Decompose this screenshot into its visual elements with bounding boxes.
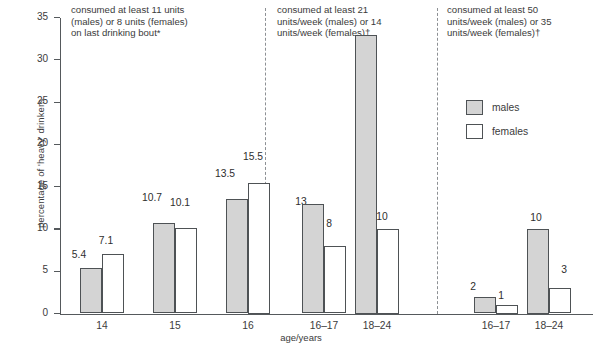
bar-value-p3g1-females: 1 <box>483 290 519 301</box>
bar-p2g1-females <box>324 246 346 314</box>
y-tick-15 <box>54 186 60 187</box>
bar-p1g1-females <box>102 254 124 314</box>
bar-value-p2g1-females: 8 <box>311 218 347 229</box>
bar-p1g3-females <box>248 183 270 314</box>
y-tick-label-25: 25 <box>14 95 48 106</box>
bar-p1g1-males <box>80 268 102 314</box>
bar-p1g2-females <box>175 228 197 313</box>
y-tick-20 <box>54 144 60 145</box>
panel-3-caption: consumed at least 50 units/week (males) … <box>447 4 602 39</box>
x-axis-title: age/years <box>0 332 602 343</box>
panel-1-caption: consumed at least 11 units (males) or 8 … <box>71 4 261 39</box>
bar-p1g2-males <box>153 223 175 313</box>
group-label-p1g3: 16 <box>226 320 270 331</box>
y-tick-label-35: 35 <box>14 11 48 22</box>
y-tick-35 <box>54 17 60 18</box>
legend-swatch-males-icon <box>466 100 483 115</box>
panel-separator-2 <box>437 8 438 314</box>
legend-item-females: females <box>466 124 528 139</box>
y-tick-label-30: 30 <box>14 53 48 64</box>
y-tick-5 <box>54 271 60 272</box>
y-axis-line <box>60 18 61 314</box>
legend: males females <box>466 100 528 148</box>
y-axis-title: percentage of 'heavy' drinkers <box>35 64 46 264</box>
group-label-p2g1: 16–17 <box>302 320 346 331</box>
group-label-p3g1: 16–17 <box>474 320 518 331</box>
bar-value-p1g1-females: 7.1 <box>89 235 123 246</box>
y-tick-label-10: 10 <box>14 222 48 233</box>
bar-p2g2-females <box>377 229 399 314</box>
y-tick-label-20: 20 <box>14 137 48 148</box>
bar-value-p3g2-females: 3 <box>546 264 582 275</box>
bar-value-p1g3-females: 15.5 <box>235 151 271 162</box>
x-axis-line <box>60 314 593 315</box>
y-tick-10 <box>54 228 60 229</box>
group-label-p1g2: 15 <box>153 320 197 331</box>
legend-item-males: males <box>466 100 528 115</box>
y-tick-label-5: 5 <box>14 264 48 275</box>
group-label-p3g2: 18–24 <box>527 320 571 331</box>
y-tick-label-15: 15 <box>14 180 48 191</box>
bar-p2g2-males <box>355 35 377 314</box>
bar-value-p1g1-males: 5.4 <box>62 249 96 260</box>
y-tick-30 <box>54 59 60 60</box>
group-label-p1g1: 14 <box>80 320 124 331</box>
bar-value-p2g2-females: 10 <box>364 211 400 222</box>
bar-value-p1g2-females: 10.1 <box>162 197 198 208</box>
y-tick-label-0: 0 <box>14 307 48 318</box>
y-tick-25 <box>54 102 60 103</box>
bar-p3g2-females <box>549 288 571 313</box>
legend-label-males: males <box>492 102 519 113</box>
y-tick-0 <box>54 313 60 314</box>
bar-p1g3-males <box>226 199 248 313</box>
bar-p3g1-females <box>496 305 518 314</box>
bar-value-p3g2-males: 10 <box>518 212 554 223</box>
group-label-p2g2: 18–24 <box>355 320 399 331</box>
legend-swatch-females-icon <box>466 124 483 139</box>
chart-figure: percentage of 'heavy' drinkers 051015202… <box>0 0 602 349</box>
bar-value-p1g3-males: 13.5 <box>207 168 243 179</box>
legend-label-females: females <box>492 126 528 137</box>
